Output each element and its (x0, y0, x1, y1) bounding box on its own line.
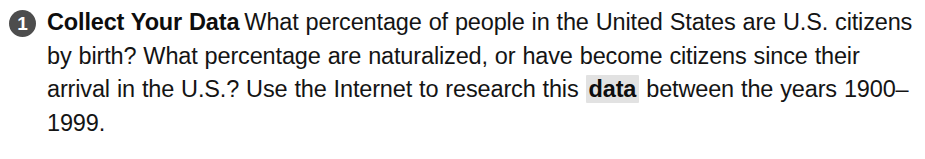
instruction-step-block: 1 Collect Your DataWhat percentage of pe… (0, 0, 925, 159)
step-text-paragraph: Collect Your DataWhat percentage of peop… (0, 6, 925, 140)
step-number-badge: 1 (9, 10, 36, 37)
highlighted-term: data (586, 75, 640, 103)
step-heading: Collect Your Data (47, 9, 239, 35)
